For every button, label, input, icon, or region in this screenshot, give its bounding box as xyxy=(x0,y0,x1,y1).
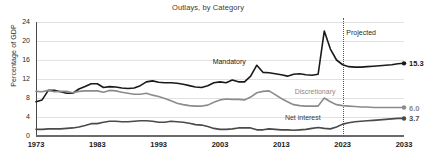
end-label-net-interest: 3.7 xyxy=(409,114,419,123)
annotation-projected: Projected xyxy=(346,29,376,36)
plot-area: 04812162024 1973198319932003201320232033… xyxy=(36,22,404,136)
endpoint-marker-net-interest xyxy=(402,116,406,120)
chart-title: Outlays, by Category xyxy=(0,3,416,12)
annotation-net-interest: Net interest xyxy=(285,114,321,121)
x-tick-label-1983: 1983 xyxy=(89,140,106,149)
endpoint-marker-discretionary xyxy=(402,105,406,109)
y-tick-label-12: 12 xyxy=(0,75,30,82)
y-tick-label-16: 16 xyxy=(0,56,30,63)
x-tick-label-2003: 2003 xyxy=(212,140,229,149)
x-tick-label-1993: 1993 xyxy=(150,140,167,149)
x-tick-label-1973: 1973 xyxy=(28,140,45,149)
y-tick-label-0: 0 xyxy=(0,132,30,139)
x-tick-label-2013: 2013 xyxy=(273,140,290,149)
y-tick-label-8: 8 xyxy=(0,94,30,101)
series-lines xyxy=(36,22,404,136)
end-label-discretionary: 6.0 xyxy=(409,103,419,112)
line-discretionary xyxy=(36,90,404,107)
x-tick-label-2023: 2023 xyxy=(334,140,351,149)
y-tick-label-20: 20 xyxy=(0,37,30,44)
y-tick-label-24: 24 xyxy=(0,18,30,25)
end-label-mandatory: 15.3 xyxy=(409,59,424,68)
x-tick-label-2033: 2033 xyxy=(396,140,413,149)
annotation-mandatory: Mandatory xyxy=(213,58,246,65)
line-net-interest xyxy=(36,118,404,130)
y-tick-label-4: 4 xyxy=(0,113,30,120)
endpoint-marker-mandatory xyxy=(402,61,406,65)
annotation-discretionary: Discretionary xyxy=(295,88,336,95)
